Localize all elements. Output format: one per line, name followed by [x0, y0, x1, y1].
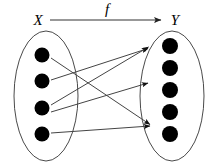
domain-element-x1 — [35, 48, 50, 63]
mapping-x1-to-y5 — [51, 58, 150, 125]
mapping-x3-to-y3 — [51, 83, 148, 112]
domain-element-x3 — [35, 101, 50, 116]
codomain-element-y5 — [162, 126, 178, 142]
mapping-lines — [51, 47, 150, 133]
mapping-x4-to-y5 — [51, 126, 150, 133]
domain-elements — [35, 48, 50, 142]
mapping-x2-to-y1 — [51, 49, 148, 81]
codomain-elements — [162, 38, 178, 142]
mapping-x3-to-y1 — [51, 47, 149, 105]
codomain-label-top: Y — [171, 12, 181, 28]
codomain-element-y4 — [162, 104, 178, 120]
domain-label-top: X — [32, 12, 43, 28]
function-name-label: f — [105, 1, 111, 17]
function-diagram: Y --> X f Y — [0, 0, 218, 165]
codomain-element-y2 — [162, 60, 178, 76]
codomain-element-y1 — [162, 38, 178, 54]
domain-element-x4 — [35, 127, 50, 142]
domain-element-x2 — [35, 74, 50, 89]
codomain-element-y3 — [162, 82, 178, 98]
function-diagram-canvas: Y --> X f Y — [0, 0, 218, 165]
